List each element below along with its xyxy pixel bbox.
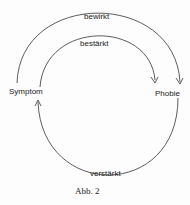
diagram-canvas: bewirkt bestärkt Symptom Phobie verstärk… [0, 0, 190, 205]
edge-label-bewirkt: bewirkt [84, 12, 109, 21]
edge-label-bestaerkt: bestärkt [80, 39, 108, 48]
node-phobie: Phobie [155, 89, 180, 98]
arrow-verstaerkt [38, 98, 178, 175]
arrow-bewirkt [17, 13, 180, 83]
edge-label-verstaerkt: verstärkt [90, 169, 121, 178]
node-symptom: Symptom [9, 87, 43, 96]
figure-caption: Abb. 2 [75, 186, 100, 196]
